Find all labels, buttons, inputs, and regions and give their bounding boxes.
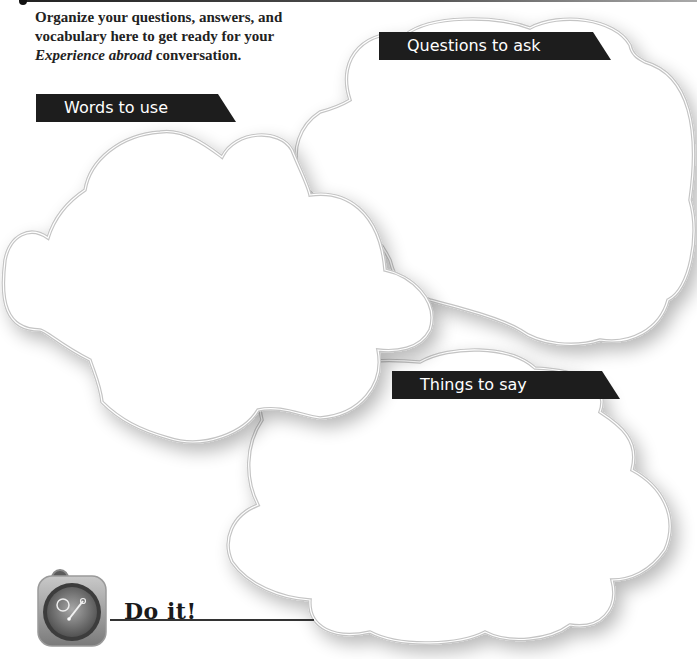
things-label: Things to say: [392, 371, 620, 399]
stopwatch-icon: [36, 568, 110, 650]
questions-label: Questions to ask: [379, 32, 611, 60]
words-label: Words to use: [36, 94, 236, 122]
do-it-rule: [110, 619, 314, 621]
